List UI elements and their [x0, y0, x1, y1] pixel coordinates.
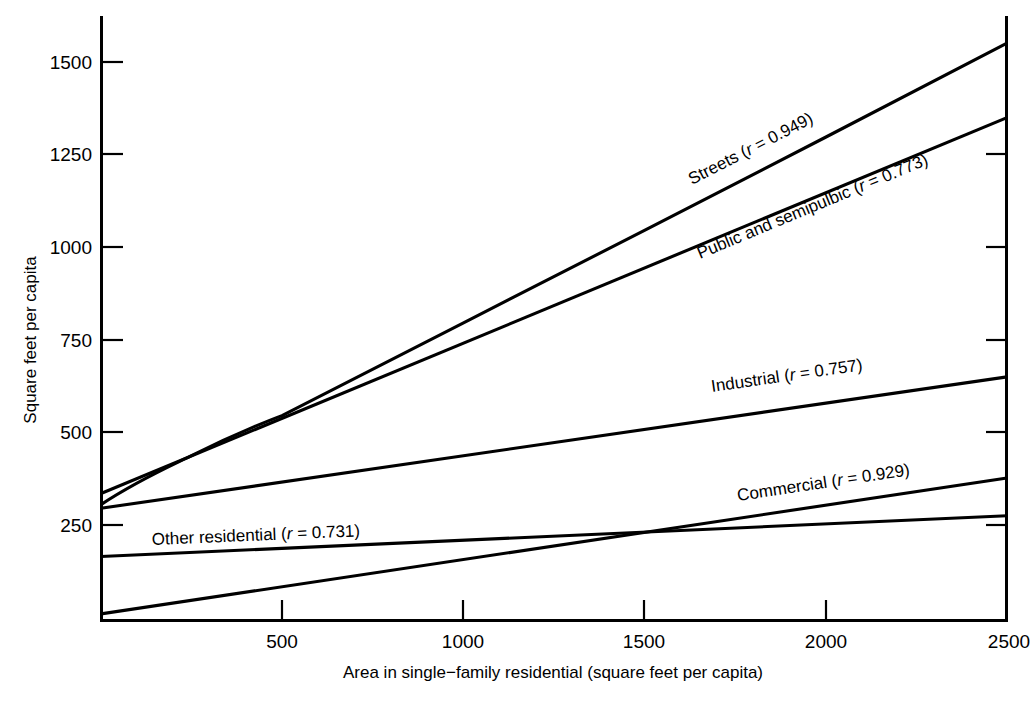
y-tick-label-1000: 1000 [50, 237, 92, 258]
y-tick-label-500: 500 [60, 422, 92, 443]
y-axis-title: Square feet per capita [21, 256, 40, 424]
y-tick-label-250: 250 [60, 515, 92, 536]
x-tick-label-1500: 1500 [623, 631, 665, 652]
x-tick-label-2000: 2000 [805, 631, 847, 652]
x-tick-label-1000: 1000 [442, 631, 484, 652]
chart-canvas: 1500 1250 1000 750 500 250 500 1000 1500… [0, 0, 1032, 705]
chart-background [0, 0, 1032, 705]
line-chart: 1500 1250 1000 750 500 250 500 1000 1500… [0, 0, 1032, 705]
x-tick-label-2500: 2500 [988, 631, 1030, 652]
y-tick-label-750: 750 [60, 330, 92, 351]
y-tick-label-1250: 1250 [50, 144, 92, 165]
x-axis-title: Area in single−family residential (squar… [343, 663, 763, 682]
series-label-other-suffix: = 0.731) [292, 521, 360, 543]
x-tick-label-500: 500 [266, 631, 298, 652]
y-tick-label-1500: 1500 [50, 52, 92, 73]
